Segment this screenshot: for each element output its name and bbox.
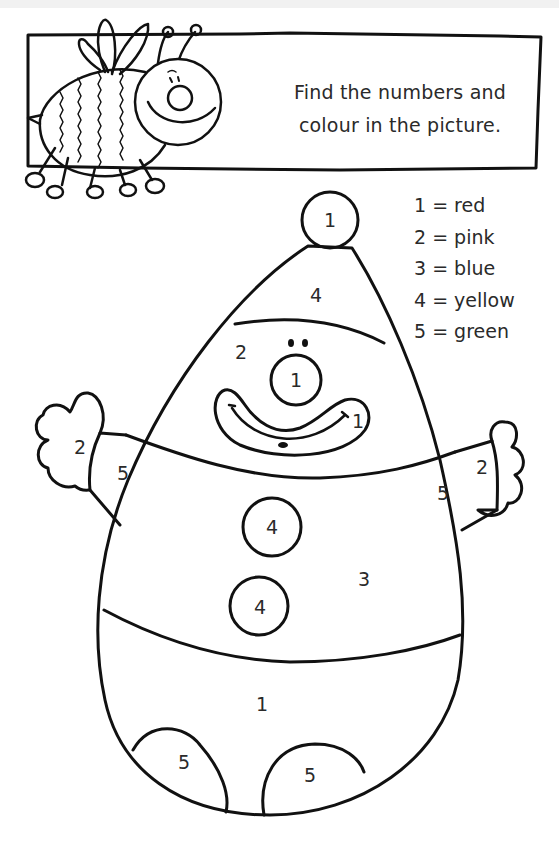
key-item-yellow: 4 = yellow bbox=[414, 285, 515, 317]
key-item-pink: 2 = pink bbox=[414, 222, 515, 254]
mouth-number: 1 bbox=[352, 412, 364, 431]
instructions-text: Find the numbers and colour in the pictu… bbox=[270, 76, 530, 142]
hat-brim-line bbox=[235, 320, 384, 343]
key-item-green: 5 = green bbox=[414, 316, 515, 348]
clown-body-outline bbox=[98, 246, 463, 815]
bee-icon bbox=[26, 20, 221, 198]
instructions-line-1: Find the numbers and bbox=[270, 76, 530, 109]
left-glove-number: 2 bbox=[74, 438, 86, 457]
pompom-number: 1 bbox=[324, 211, 336, 230]
hat-number: 4 bbox=[310, 286, 322, 305]
left-shoe-number: 5 bbox=[178, 753, 190, 772]
trousers-number: 1 bbox=[256, 695, 268, 714]
trousers-top-line bbox=[104, 610, 460, 662]
instructions-line-2: colour in the picture. bbox=[270, 109, 530, 142]
right-glove-number: 2 bbox=[476, 458, 488, 477]
left-cuff-number: 5 bbox=[117, 464, 129, 483]
button-top-number: 4 bbox=[266, 518, 278, 537]
button-bottom-number: 4 bbox=[254, 598, 266, 617]
jacket-number: 3 bbox=[358, 570, 370, 589]
key-item-red: 1 = red bbox=[414, 190, 515, 222]
nose-number: 1 bbox=[290, 371, 302, 390]
face-number: 2 bbox=[235, 343, 247, 362]
key-item-blue: 3 = blue bbox=[414, 253, 515, 285]
mouth-region bbox=[215, 390, 369, 455]
colour-key: 1 = red 2 = pink 3 = blue 4 = yellow 5 =… bbox=[414, 190, 515, 348]
left-glove-region bbox=[36, 393, 103, 490]
right-shoe-number: 5 bbox=[304, 766, 316, 785]
right-cuff-number: 5 bbox=[437, 484, 449, 503]
